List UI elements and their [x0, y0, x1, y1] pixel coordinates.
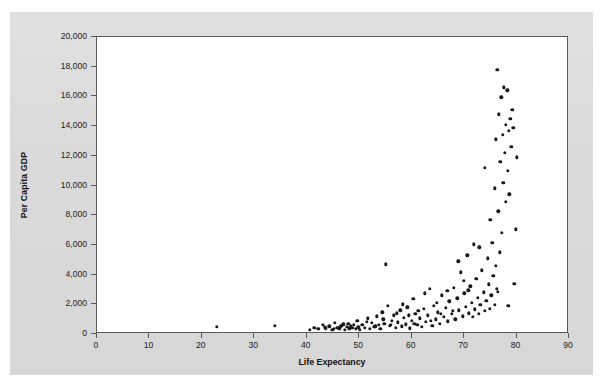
scatter-point	[435, 301, 438, 304]
scatter-point	[469, 285, 472, 288]
scatter-point	[312, 326, 315, 329]
y-axis-title: Per Capita GDP	[18, 36, 30, 333]
scatter-point	[482, 291, 485, 294]
scatter-point	[389, 323, 392, 326]
scatter-point	[386, 304, 389, 307]
scatter-point	[430, 324, 433, 327]
scatter-point	[505, 89, 508, 92]
scatter-point	[404, 323, 407, 326]
x-axis-title: Life Expectancy	[96, 357, 568, 367]
scatter-point	[507, 129, 510, 132]
scatter-point	[493, 187, 496, 190]
scatter-point	[332, 327, 335, 330]
x-axis-tick-label: 0	[76, 340, 116, 350]
scatter-point	[508, 193, 511, 196]
scatter-point	[480, 268, 483, 271]
scatter-point	[511, 108, 514, 111]
scatter-point	[498, 251, 501, 254]
scatter-point	[434, 318, 437, 321]
scatter-point	[476, 296, 479, 299]
scatter-point	[408, 327, 411, 330]
y-axis-tick-label: 2,000	[41, 298, 87, 308]
scatter-point	[500, 95, 503, 98]
scatter-point	[484, 299, 487, 302]
x-axis-tick-label: 80	[496, 340, 536, 350]
scatter-point	[462, 279, 465, 282]
scatter-point	[478, 245, 481, 248]
scatter-point	[384, 263, 387, 266]
scatter-point	[456, 297, 459, 300]
scatter-point	[501, 133, 504, 136]
scatter-point	[467, 312, 470, 315]
y-axis-tick-label: 6,000	[41, 239, 87, 249]
scatter-point	[467, 288, 470, 291]
scatter-point	[308, 328, 311, 331]
scatter-point	[494, 138, 497, 141]
scatter-point	[378, 327, 381, 330]
scatter-point	[500, 231, 503, 234]
scatter-point	[499, 160, 502, 163]
x-axis-tick-label: 20	[181, 340, 221, 350]
scatter-point	[375, 315, 378, 318]
scatter-point	[462, 291, 465, 294]
scatter-point	[442, 315, 445, 318]
scatter-point	[515, 156, 518, 159]
scatter-point	[333, 321, 336, 324]
scatter-point	[492, 274, 495, 277]
x-axis-tick-mark	[411, 333, 412, 338]
scatter-point	[506, 169, 509, 172]
y-axis-tick-label: 4,000	[41, 269, 87, 279]
y-axis-tick-label: 0	[41, 328, 87, 338]
scatter-point	[474, 277, 477, 280]
scatter-point	[402, 316, 405, 319]
x-axis-tick-mark	[358, 333, 359, 338]
y-axis-tick-label: 20,000	[41, 31, 87, 41]
scatter-point	[486, 257, 489, 260]
scatter-point	[417, 309, 420, 312]
x-axis-tick-label: 10	[128, 340, 168, 350]
x-axis-tick-mark	[148, 333, 149, 338]
scatter-point	[396, 321, 399, 324]
scatter-point	[398, 309, 401, 312]
scatter-point	[494, 264, 497, 267]
scatter-point	[510, 145, 513, 148]
scatter-point	[428, 287, 431, 290]
scatter-point	[470, 301, 473, 304]
y-axis-tick-label: 8,000	[41, 209, 87, 219]
scatter-point	[504, 200, 507, 203]
scatter-point	[471, 315, 474, 318]
scatter-point	[374, 325, 377, 328]
scatter-point	[457, 260, 460, 263]
scatter-point	[497, 113, 500, 116]
x-axis-tick-label: 30	[233, 340, 273, 350]
scatter-point	[483, 166, 486, 169]
y-axis-tick-label: 10,000	[41, 180, 87, 190]
scatter-point	[466, 254, 469, 257]
scatter-point	[370, 321, 373, 324]
figure-panel: Per Capita GDP 02,0004,0006,0008,00010,0…	[10, 12, 593, 375]
x-axis-tick-mark	[96, 333, 97, 338]
scatter-point	[450, 312, 453, 315]
scatter-point	[412, 297, 415, 300]
scatter-point	[440, 294, 443, 297]
scatter-point	[418, 317, 421, 320]
scatter-point	[363, 326, 366, 329]
x-axis-tick-label: 70	[443, 340, 483, 350]
scatter-point	[457, 309, 460, 312]
scatter-point	[339, 325, 342, 328]
scatter-points-layer	[97, 37, 567, 332]
scatter-point	[496, 210, 499, 213]
scatter-point	[377, 323, 380, 326]
scatter-point	[509, 117, 512, 120]
scatter-point	[448, 300, 451, 303]
x-axis-tick-mark	[516, 333, 517, 338]
scatter-point	[491, 241, 494, 244]
y-axis-tick-label: 12,000	[41, 150, 87, 160]
x-axis-tick-label: 50	[338, 340, 378, 350]
scatter-point	[381, 311, 384, 314]
scatter-point	[365, 320, 368, 323]
scatter-point	[489, 218, 492, 221]
scatter-point	[438, 322, 441, 325]
scatter-point	[420, 325, 423, 328]
x-axis-tick-mark	[568, 333, 569, 338]
